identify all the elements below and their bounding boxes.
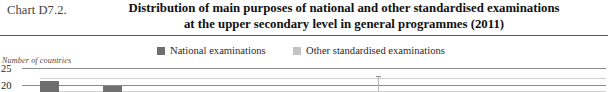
y-axis-tick-label-20: 20	[1, 80, 21, 91]
bar-2	[103, 86, 122, 92]
chart-title: Distribution of main purposes of nationa…	[84, 1, 604, 32]
bar-1	[40, 81, 59, 92]
chart-legend: National examinations Other standardised…	[0, 44, 608, 58]
chart-title-line-1: Distribution of main purposes of nationa…	[84, 1, 604, 17]
value-marker-icon	[378, 76, 379, 92]
title-divider	[0, 35, 608, 36]
legend-item-other-standardised-examinations[interactable]: Other standardised examinations	[293, 44, 445, 58]
gridline-25	[22, 68, 606, 69]
legend-item-national-examinations[interactable]: National examinations	[157, 44, 266, 58]
chart-header: Chart D7.2. Distribution of main purpose…	[0, 0, 608, 36]
legend-swatch-icon-national	[157, 47, 165, 55]
chart-number-label: Chart D7.2.	[7, 3, 67, 18]
value-marker-cap-icon	[376, 76, 381, 77]
legend-swatch-icon-other	[293, 47, 301, 55]
chart-figure: Chart D7.2. Distribution of main purpose…	[0, 0, 608, 92]
plot-area: Number of countries 25 20	[0, 58, 608, 92]
legend-label-national: National examinations	[170, 45, 266, 57]
gridline-faint-lower	[40, 91, 606, 92]
legend-label-other: Other standardised examinations	[306, 45, 445, 57]
y-axis-tick-label-25: 25	[1, 63, 21, 74]
gridline-faint-upper	[40, 78, 606, 79]
chart-title-line-2: at the upper secondary level in general …	[84, 17, 604, 33]
